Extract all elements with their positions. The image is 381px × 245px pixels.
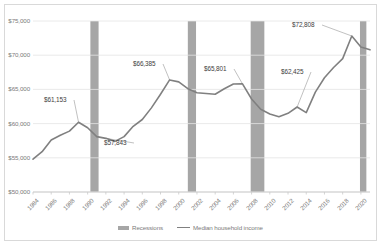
axis-lines-group xyxy=(33,192,370,195)
data-point-callout-label: $72,808 xyxy=(292,21,314,28)
gridlines-group xyxy=(33,21,370,192)
median-household-income-chart: $50,000$55,000$60,000$65,000$70,000$75,0… xyxy=(0,0,381,245)
y-axis-tick-label: $55,000 xyxy=(2,154,30,161)
recession-swatch-icon xyxy=(118,226,129,230)
income-line xyxy=(33,36,370,159)
legend-item-recessions[interactable]: Recessions xyxy=(118,224,163,231)
data-point-callout-label: $65,801 xyxy=(204,65,226,72)
callout-leader-line xyxy=(234,69,242,84)
income-line-series-group xyxy=(33,36,370,159)
data-point-callout-label: $61,153 xyxy=(44,96,66,103)
recession-band xyxy=(90,21,98,192)
legend-label-median-household-income: Median household income xyxy=(193,224,263,231)
callout-leader-line xyxy=(322,25,352,36)
data-point-callout-label: $62,425 xyxy=(281,68,303,75)
y-axis-tick-label: $65,000 xyxy=(2,85,30,92)
data-point-callout-label: $57,843 xyxy=(104,139,126,146)
y-axis-tick-label: $70,000 xyxy=(2,51,30,58)
income-line-swatch-icon xyxy=(177,227,190,228)
legend-item-median-household-income[interactable]: Median household income xyxy=(177,224,263,231)
callout-leader-line xyxy=(163,64,170,80)
y-axis-tick-label: $75,000 xyxy=(2,17,30,24)
y-axis-tick-label: $60,000 xyxy=(2,120,30,127)
recession-bands-group xyxy=(90,21,366,192)
recession-band xyxy=(188,21,196,192)
annotation-leader-lines-group xyxy=(74,25,352,143)
data-point-callout-label: $66,385 xyxy=(133,60,155,67)
legend-label-recessions: Recessions xyxy=(132,224,163,231)
y-axis-tick-label: $50,000 xyxy=(2,188,30,195)
callout-leader-line xyxy=(74,100,79,122)
chart-legend: Recessions Median household income xyxy=(0,224,381,231)
